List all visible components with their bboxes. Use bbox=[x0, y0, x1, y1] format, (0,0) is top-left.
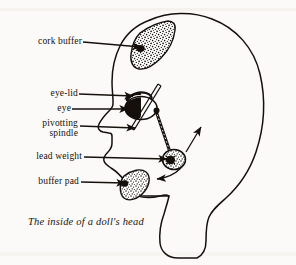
label-buffer-pad: buffer pad bbox=[14, 176, 79, 186]
leader-cork-buffer bbox=[83, 42, 141, 47]
label-cork-buffer: cork buffer bbox=[14, 36, 82, 46]
weight-arm bbox=[154, 108, 171, 153]
leader-pivotting-spindle bbox=[80, 126, 135, 128]
label-eye-lid: eye-lid bbox=[14, 88, 78, 98]
cork-buffer-icon bbox=[131, 21, 175, 69]
leader-lead-weight bbox=[84, 157, 167, 159]
leader-eye-lid bbox=[79, 94, 133, 96]
leader-buffer-pad bbox=[81, 182, 125, 183]
label-pivotting-spindle-line2: spindle bbox=[14, 129, 78, 139]
label-pivotting-spindle: pivotting spindle bbox=[14, 119, 78, 139]
label-eye: eye bbox=[14, 103, 71, 113]
dolls-head-diagram: cork buffer eye-lid eye pivotting spindl… bbox=[0, 0, 296, 265]
figure-caption: The inside of a doll's head bbox=[28, 216, 144, 227]
label-lead-weight: lead weight bbox=[14, 151, 82, 161]
motion-arrow-up-right-icon bbox=[186, 127, 201, 152]
